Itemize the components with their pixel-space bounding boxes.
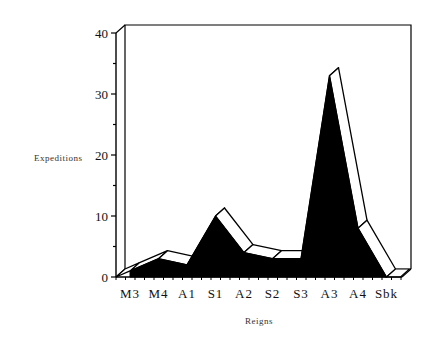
y-tick-label: 30 <box>95 87 108 102</box>
x-tick-label: A4 <box>349 286 367 301</box>
x-tick-label: S3 <box>293 286 309 301</box>
x-tick-label: A3 <box>321 286 339 301</box>
x-tick-label: A2 <box>235 286 253 301</box>
data-area <box>116 68 410 277</box>
y-tick-label: 40 <box>95 26 108 41</box>
y-tick-label: 20 <box>95 148 108 163</box>
x-tick-label: A1 <box>178 286 196 301</box>
x-tick-label: S1 <box>208 286 224 301</box>
y-axis-ticks: 010203040 <box>95 26 116 285</box>
x-tick-label: M4 <box>148 286 168 301</box>
area-chart: 010203040 M3M4A1S1A2S2S3A3A4Sbk <box>0 0 432 343</box>
x-tick-label: Sbk <box>375 286 398 301</box>
x-axis-ticks: M3M4A1S1A2S2S3A3A4Sbk <box>116 277 401 301</box>
x-tick-label: M3 <box>120 286 140 301</box>
x-tick-label: S2 <box>265 286 281 301</box>
y-tick-label: 0 <box>102 270 109 285</box>
y-tick-label: 10 <box>95 209 108 224</box>
